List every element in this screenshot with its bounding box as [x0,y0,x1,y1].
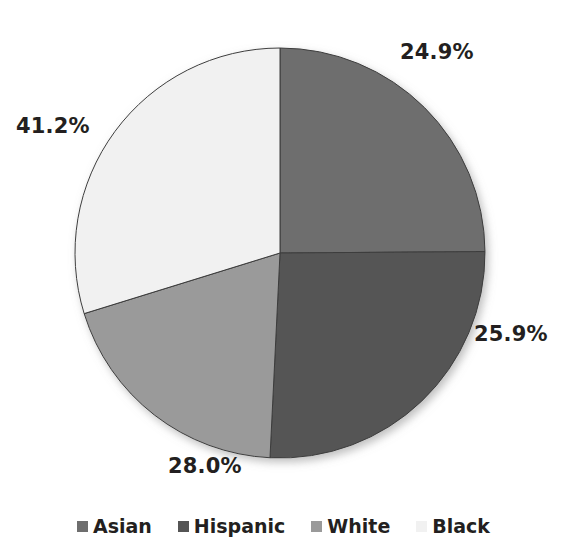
legend-label: White [327,517,390,536]
legend-label: Asian [93,517,152,536]
legend-swatch-icon [311,521,322,532]
legend-item-black[interactable]: Black [416,517,490,536]
legend-swatch-icon [77,521,88,532]
pie-slice-hispanic[interactable] [270,252,485,458]
data-label-asian: 24.9% [400,42,474,63]
data-label-white: 28.0% [168,456,242,477]
data-label-black: 41.2% [16,116,90,137]
legend-item-hispanic[interactable]: Hispanic [178,517,285,536]
legend-item-asian[interactable]: Asian [77,517,152,536]
legend-swatch-icon [178,521,189,532]
pie-slices-group [75,48,485,458]
pie-svg [0,0,567,500]
pie-slice-asian[interactable] [280,48,485,253]
legend-item-white[interactable]: White [311,517,390,536]
legend-label: Black [432,517,490,536]
chart-legend: AsianHispanicWhiteBlack [0,512,567,540]
pie-chart: 24.9% 25.9% 28.0% 41.2% AsianHispanicWhi… [0,0,567,547]
pie-plot-area: 24.9% 25.9% 28.0% 41.2% [0,0,567,500]
legend-swatch-icon [416,521,427,532]
data-label-hispanic: 25.9% [474,324,548,345]
legend-label: Hispanic [194,517,285,536]
